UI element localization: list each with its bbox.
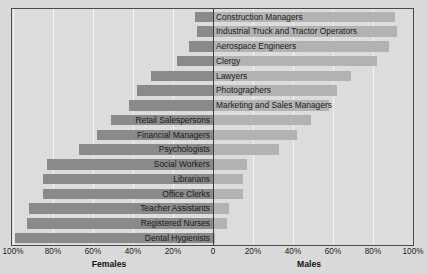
bar-category-label: Aerospace Engineers	[216, 39, 296, 54]
bar-category-label: Social Workers	[154, 157, 210, 172]
bar-male	[213, 203, 229, 214]
bar-male	[213, 130, 297, 141]
axis-tick-label: 0	[211, 247, 216, 256]
bar-male	[213, 174, 243, 185]
axis-tick-label: 60%	[325, 247, 341, 256]
axis-tick-label: 80%	[45, 247, 61, 256]
zero-axis-line	[213, 9, 214, 245]
bar-category-label: Teacher Assistants	[140, 201, 210, 216]
bar-category-label: Construction Managers	[216, 10, 303, 25]
gridline	[413, 9, 414, 245]
bar-male	[213, 159, 247, 170]
bar-category-label: Registered Nurses	[141, 216, 210, 231]
bar-category-label: Industrial Truck and Tractor Operators	[216, 24, 357, 39]
bar-category-label: Financial Managers	[137, 128, 210, 143]
bar-category-label: Office Clerks	[162, 187, 210, 202]
bar-category-label: Clergy	[216, 54, 240, 69]
bar-male	[213, 115, 311, 126]
bar-category-label: Lawyers	[216, 69, 247, 84]
bar-category-label: Retail Salespersons	[136, 113, 210, 128]
axis-tick-label: 40%	[285, 247, 301, 256]
bar-category-label: Photographers	[216, 83, 271, 98]
bar-female	[195, 12, 213, 23]
bar-female	[189, 41, 213, 52]
bar-category-label: Psychologists	[159, 142, 210, 157]
bar-category-label: Marketing and Sales Managers	[216, 98, 332, 113]
axis-tick-label: 60%	[85, 247, 101, 256]
axis-title-females: Females	[92, 259, 126, 269]
bar-female	[151, 71, 213, 82]
axis-tick-label: 100%	[403, 247, 424, 256]
bar-female	[177, 56, 213, 67]
gender-distribution-chart: Construction ManagersIndustrial Truck an…	[0, 0, 427, 274]
bar-male	[213, 218, 227, 229]
axis-title-males: Males	[297, 259, 321, 269]
axis-tick-label: 20%	[245, 247, 261, 256]
axis-tick-label: 80%	[365, 247, 381, 256]
bar-female	[137, 85, 213, 96]
axis-tick-label: 40%	[125, 247, 141, 256]
axis-tick-label: 20%	[165, 247, 181, 256]
plot-area: Construction ManagersIndustrial Truck an…	[11, 8, 414, 246]
bar-female	[129, 100, 213, 111]
bar-category-label: Dental Hygienists	[145, 231, 210, 246]
bar-male	[213, 189, 243, 200]
bar-male	[213, 144, 279, 155]
x-axis: 100%80%60%40%20%020%40%60%80%100%	[11, 247, 414, 259]
axis-tick-label: 100%	[3, 247, 24, 256]
bar-category-label: Librarians	[173, 172, 210, 187]
bar-female	[197, 26, 213, 37]
